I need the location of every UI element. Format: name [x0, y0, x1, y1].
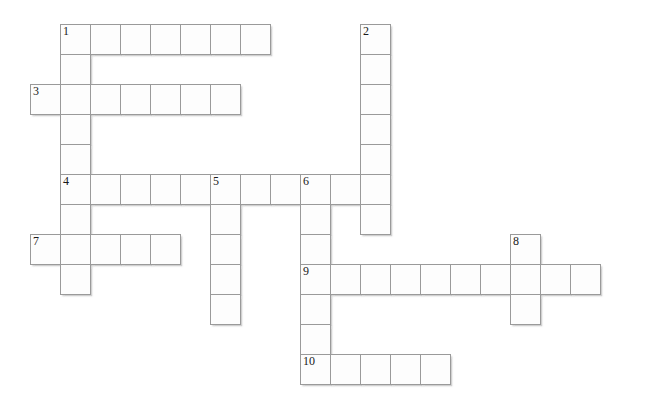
crossword-cell[interactable]	[360, 54, 391, 85]
crossword-cell[interactable]	[180, 24, 211, 55]
crossword-cell[interactable]	[150, 24, 181, 55]
crossword-cell[interactable]	[420, 264, 451, 295]
crossword-cell[interactable]	[180, 84, 211, 115]
crossword-cell[interactable]: 8	[510, 234, 541, 265]
crossword-cell[interactable]	[300, 204, 331, 235]
crossword-cell[interactable]: 6	[300, 174, 331, 205]
crossword-cell[interactable]	[210, 204, 241, 235]
crossword-cell[interactable]	[480, 264, 511, 295]
crossword-cell[interactable]	[300, 234, 331, 265]
crossword-cell[interactable]	[90, 234, 121, 265]
crossword-cell[interactable]	[360, 204, 391, 235]
crossword-cell[interactable]	[360, 114, 391, 145]
cell-number: 10	[303, 355, 315, 368]
crossword-cell[interactable]	[360, 84, 391, 115]
crossword-cell[interactable]: 1	[60, 24, 91, 55]
crossword-cell[interactable]	[150, 84, 181, 115]
crossword-cell[interactable]	[90, 84, 121, 115]
cell-number: 6	[303, 175, 309, 188]
crossword-cell[interactable]: 10	[300, 354, 331, 385]
crossword-cell[interactable]	[150, 234, 181, 265]
crossword-cell[interactable]	[360, 354, 391, 385]
crossword-cell[interactable]	[210, 84, 241, 115]
crossword-cell[interactable]	[300, 324, 331, 355]
crossword-cell[interactable]	[120, 174, 151, 205]
crossword-cell[interactable]	[210, 24, 241, 55]
crossword-cell[interactable]	[150, 174, 181, 205]
crossword-cell[interactable]	[90, 24, 121, 55]
crossword-cell[interactable]	[60, 54, 91, 85]
cell-number: 9	[303, 265, 309, 278]
crossword-cell[interactable]	[450, 264, 481, 295]
crossword-cell[interactable]	[360, 174, 391, 205]
crossword-cell[interactable]: 5	[210, 174, 241, 205]
crossword-cell[interactable]	[390, 354, 421, 385]
crossword-cell[interactable]	[60, 204, 91, 235]
cell-number: 3	[33, 85, 39, 98]
crossword-cell[interactable]	[510, 294, 541, 325]
cell-number: 1	[63, 25, 69, 38]
crossword-cell[interactable]	[210, 294, 241, 325]
cell-number: 7	[33, 235, 39, 248]
crossword-cell[interactable]	[420, 354, 451, 385]
crossword-cell[interactable]	[120, 24, 151, 55]
crossword-cell[interactable]	[90, 174, 121, 205]
crossword-cell[interactable]	[120, 234, 151, 265]
crossword-cell[interactable]	[330, 354, 361, 385]
cell-number: 2	[363, 25, 369, 38]
crossword-cell[interactable]	[60, 84, 91, 115]
crossword-cell[interactable]	[240, 24, 271, 55]
crossword-cell[interactable]	[60, 144, 91, 175]
crossword-cell[interactable]	[390, 264, 421, 295]
crossword-cell[interactable]	[570, 264, 601, 295]
cell-number: 4	[63, 175, 69, 188]
crossword-cell[interactable]	[300, 294, 331, 325]
crossword-cell[interactable]	[360, 264, 391, 295]
crossword-cell[interactable]	[360, 144, 391, 175]
crossword-cell[interactable]: 7	[30, 234, 61, 265]
crossword-cell[interactable]	[510, 264, 541, 295]
crossword-cell[interactable]: 9	[300, 264, 331, 295]
crossword-cell[interactable]	[540, 264, 571, 295]
crossword-cell[interactable]: 3	[30, 84, 61, 115]
crossword-cell[interactable]	[120, 84, 151, 115]
crossword-cell[interactable]	[60, 114, 91, 145]
crossword-cell[interactable]	[240, 174, 271, 205]
crossword-cell[interactable]	[210, 234, 241, 265]
crossword-cell[interactable]	[270, 174, 301, 205]
cell-number: 8	[513, 235, 519, 248]
cell-number: 5	[213, 175, 219, 188]
crossword-cell[interactable]	[60, 264, 91, 295]
crossword-cell[interactable]	[330, 264, 361, 295]
crossword-cell[interactable]: 2	[360, 24, 391, 55]
crossword-cell[interactable]	[210, 264, 241, 295]
crossword-cell[interactable]	[330, 174, 361, 205]
crossword-cell[interactable]	[60, 234, 91, 265]
crossword-grid: 12345678910	[0, 0, 646, 417]
crossword-cell[interactable]	[180, 174, 211, 205]
crossword-cell[interactable]: 4	[60, 174, 91, 205]
